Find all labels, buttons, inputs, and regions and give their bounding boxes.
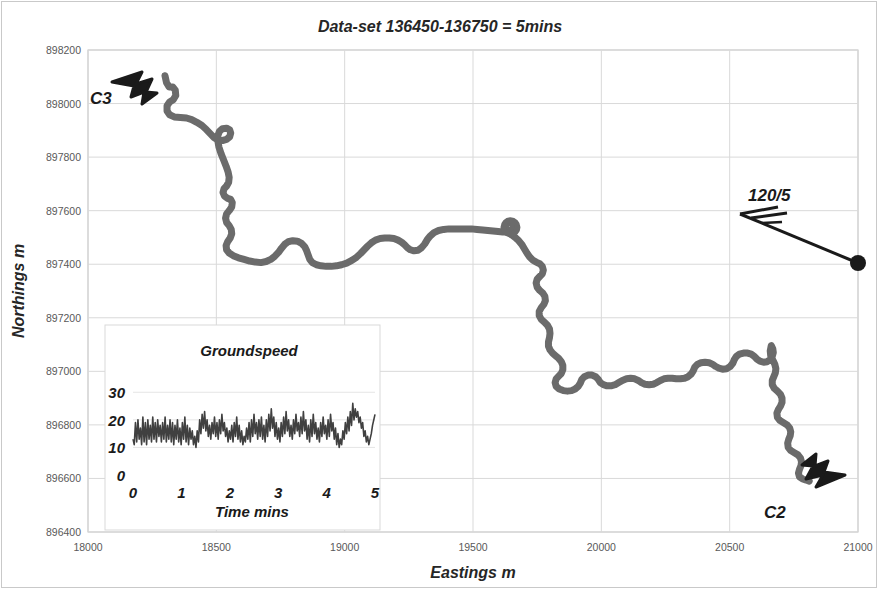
y-tick-labels: 8964008966008968008970008972008974008976… <box>46 44 81 538</box>
inset-y-tick-label: 0 <box>117 467 126 484</box>
groundspeed-inset-chart: Groundspeed 0102030 012345 Time mins <box>105 325 380 530</box>
y-tick-label: 898200 <box>46 44 81 56</box>
inset-y-tick-label: 30 <box>108 384 125 401</box>
inset-x-tick-label: 1 <box>177 484 185 501</box>
y-tick-label: 897800 <box>46 151 81 163</box>
page-title: Data-set 136450-136750 = 5mins <box>318 18 562 35</box>
x-tick-label: 18000 <box>73 541 102 553</box>
x-axis-title: Eastings m <box>430 564 515 581</box>
y-tick-label: 897200 <box>46 312 81 324</box>
track-chart-svg: Data-set 136450-136750 = 5mins Eastings … <box>0 0 880 591</box>
inset-x-axis-title: Time mins <box>215 503 289 520</box>
y-tick-label: 897600 <box>46 205 81 217</box>
c2-label: C2 <box>764 503 786 522</box>
chart-figure: Data-set 136450-136750 = 5mins Eastings … <box>0 0 880 591</box>
x-tick-label: 20000 <box>587 541 616 553</box>
x-tick-label: 21000 <box>843 541 872 553</box>
y-axis-title: Northings m <box>10 244 27 338</box>
x-tick-label: 20500 <box>715 541 744 553</box>
inset-y-tick-label: 10 <box>108 439 125 456</box>
x-tick-label: 19000 <box>330 541 359 553</box>
inset-x-tick-label: 5 <box>371 484 380 501</box>
y-tick-label: 896600 <box>46 472 81 484</box>
x-tick-label: 18500 <box>202 541 231 553</box>
inset-x-tick-label: 3 <box>274 484 283 501</box>
inset-title: Groundspeed <box>200 342 298 359</box>
y-tick-label: 897400 <box>46 258 81 270</box>
inset-x-tick-label: 2 <box>225 484 235 501</box>
x-tick-label: 19500 <box>458 541 487 553</box>
y-tick-label: 898000 <box>46 98 81 110</box>
y-tick-label: 897000 <box>46 365 81 377</box>
inset-y-tick-label: 20 <box>107 412 125 429</box>
y-tick-label: 896400 <box>46 526 81 538</box>
c3-label: C3 <box>90 89 112 108</box>
wind-barb-label: 120/5 <box>748 186 791 205</box>
y-tick-label: 896800 <box>46 419 81 431</box>
inset-x-tick-label: 0 <box>129 484 138 501</box>
inset-x-tick-label: 4 <box>321 484 331 501</box>
x-tick-labels: 18000185001900019500200002050021000 <box>73 541 872 553</box>
